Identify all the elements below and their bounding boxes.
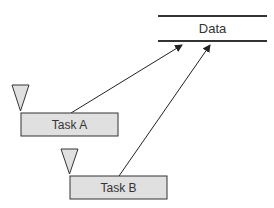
arrow-task-a-to-data: [71, 45, 182, 113]
arrow-task-b-to-data: [119, 45, 210, 176]
data-store-label: Data: [158, 22, 267, 35]
task-a-label: Task A: [21, 119, 118, 131]
task-b-label: Task B: [70, 182, 167, 194]
triangle-marker-icon: [61, 149, 78, 174]
triangle-marker-icon: [12, 85, 29, 111]
